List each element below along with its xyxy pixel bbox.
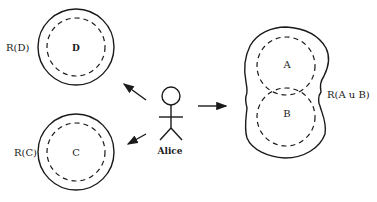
- stick-figure-right-leg: [171, 128, 182, 140]
- region-b-label: B: [283, 108, 290, 119]
- region-c-inner-label: C: [72, 147, 80, 158]
- diagram-svg: D R(D) C R(C) Alice A B: [0, 0, 377, 202]
- region-d-outer-label: R(D): [6, 42, 29, 53]
- alice-actor: Alice: [156, 87, 183, 156]
- region-d-inner-label: D: [72, 43, 80, 53]
- region-c-outer-label: R(C): [14, 147, 37, 158]
- region-aub: A B R(A u B): [245, 27, 370, 158]
- alice-label: Alice: [156, 146, 182, 156]
- region-c: C R(C): [14, 114, 114, 190]
- region-d: D R(D): [6, 9, 114, 85]
- stick-figure-head-icon: [162, 87, 180, 105]
- arrow-to-region-c-icon: [128, 134, 146, 144]
- stick-figure-left-leg: [160, 128, 171, 140]
- diagram-canvas: D R(D) C R(C) Alice A B: [0, 0, 377, 202]
- region-a-label: A: [282, 59, 291, 70]
- arrow-to-region-d-icon: [124, 84, 146, 100]
- region-aub-outer-blob: [245, 27, 329, 158]
- region-aub-outer-label: R(A u B): [327, 89, 370, 100]
